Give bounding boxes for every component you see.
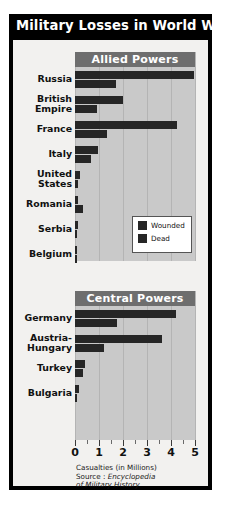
- table-row: United States: [13, 169, 208, 194]
- bar-dead: [75, 105, 97, 113]
- bar-wounded: [75, 71, 194, 79]
- category-label: United States: [14, 169, 72, 190]
- bar-wounded: [75, 385, 79, 393]
- bar-dead: [75, 180, 78, 188]
- bar-wounded: [75, 171, 80, 179]
- x-axis-tick-labels: 012345: [75, 446, 195, 460]
- table-row: Bulgaria: [13, 383, 208, 408]
- table-row: British Empire: [13, 94, 208, 119]
- bar-wounded: [75, 335, 162, 343]
- axis-tick-label: 1: [95, 446, 103, 459]
- table-row: Russia: [13, 69, 208, 94]
- table-row: France: [13, 119, 208, 144]
- legend-label-dead: Dead: [151, 234, 170, 243]
- caption-source-title-2: of Military History: [76, 481, 196, 490]
- legend-swatch-wounded: [138, 221, 147, 230]
- central-powers-band: Central Powers: [75, 291, 195, 306]
- axis-tick: [183, 440, 184, 444]
- axis-tick: [87, 440, 88, 444]
- category-label: France: [14, 124, 72, 134]
- chart-caption: Casualties (in Millions) Source : Encycl…: [76, 464, 196, 490]
- category-label: Serbia: [14, 224, 72, 234]
- axis-tick: [159, 440, 160, 444]
- axis-tick-label: 4: [167, 446, 175, 459]
- bar-dead: [75, 319, 117, 327]
- legend-item-dead: Dead: [138, 234, 191, 243]
- category-label: Turkey: [14, 363, 72, 373]
- bar-wounded: [75, 121, 177, 129]
- category-label: Romania: [14, 199, 72, 209]
- legend-item-wounded: Wounded: [138, 221, 191, 230]
- axis-tick: [111, 440, 112, 444]
- axis-tick: [135, 440, 136, 444]
- table-row: Turkey: [13, 358, 208, 383]
- bar-wounded: [75, 360, 85, 368]
- central-powers-label: Central Powers: [86, 292, 183, 305]
- bar-dead: [75, 369, 83, 377]
- bar-wounded: [75, 310, 176, 318]
- legend-label-wounded: Wounded: [151, 221, 185, 230]
- allied-powers-label: Allied Powers: [92, 53, 179, 66]
- category-label: Germany: [14, 313, 72, 323]
- chart-body: Allied Powers Central Powers RussiaBriti…: [13, 40, 208, 486]
- table-row: Italy: [13, 144, 208, 169]
- bar-dead: [75, 394, 77, 402]
- bar-wounded: [75, 221, 78, 229]
- poster-title-bar: Military Losses in World War I: [9, 14, 212, 37]
- bar-dead: [75, 230, 77, 238]
- category-label: Bulgaria: [14, 388, 72, 398]
- page-title: Military Losses in World War I: [16, 18, 226, 33]
- category-label: Italy: [14, 149, 72, 159]
- bar-wounded: [75, 96, 123, 104]
- legend-swatch-dead: [138, 234, 147, 243]
- axis-tick-label: 2: [119, 446, 127, 459]
- category-label: Russia: [14, 74, 72, 84]
- chart-legend: Wounded Dead: [132, 216, 192, 253]
- axis-tick-label: 3: [143, 446, 151, 459]
- bar-dead: [75, 130, 107, 138]
- bar-dead: [75, 80, 116, 88]
- bar-dead: [75, 255, 77, 263]
- axis-tick-label: 5: [191, 446, 199, 459]
- bar-wounded: [75, 196, 78, 204]
- infographic-poster: Military Losses in World War I Allied Po…: [9, 14, 212, 490]
- bar-dead: [75, 344, 104, 352]
- table-row: Germany: [13, 308, 208, 333]
- bar-dead: [75, 205, 83, 213]
- axis-tick-label: 0: [71, 446, 79, 459]
- category-label: British Empire: [14, 94, 72, 115]
- table-row: Austria-Hungary: [13, 333, 208, 358]
- category-label: Belgium: [14, 249, 72, 259]
- allied-powers-band: Allied Powers: [75, 52, 195, 67]
- bar-wounded: [75, 146, 98, 154]
- bar-dead: [75, 155, 91, 163]
- category-label: Austria-Hungary: [14, 333, 72, 354]
- bar-wounded: [75, 246, 77, 254]
